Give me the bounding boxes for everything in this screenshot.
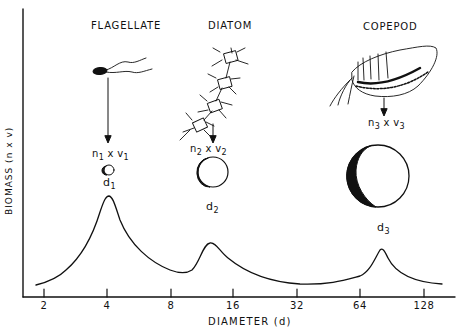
- x-tick-label: 64: [353, 300, 367, 311]
- copepod-sphere: [347, 145, 409, 207]
- x-tick-label: 2: [41, 300, 48, 311]
- x-axis-label: DIAMETER (d): [208, 316, 292, 327]
- copepod-illustration: [330, 46, 437, 106]
- y-axis-label: BIOMASS (n x v): [4, 127, 14, 215]
- flagellate-sphere: [102, 165, 114, 175]
- x-tick-label: 16: [226, 300, 240, 311]
- copepod-title: COPEPOD: [363, 21, 417, 32]
- diatom-illustration: [180, 48, 248, 140]
- diatom-diameter-label: d2: [206, 200, 219, 215]
- biomass-curve: [36, 196, 442, 285]
- flagellate-arrow: [105, 78, 111, 143]
- flagellate-biomass-formula: n1 x v1: [92, 148, 129, 162]
- x-axis-ticks: [44, 289, 424, 297]
- flagellate-illustration: [93, 58, 152, 75]
- diatom-sphere: [197, 157, 228, 187]
- diatom-arrow: [210, 124, 216, 143]
- copepod-arrow: [381, 98, 387, 116]
- diatom-title: DIATOM: [208, 20, 252, 31]
- x-tick-label: 8: [168, 300, 175, 311]
- diatom-biomass-formula: n2 x v2: [190, 143, 227, 157]
- copepod-diameter-label: d3: [377, 221, 390, 236]
- x-tick-label: 32: [290, 300, 304, 311]
- flagellate-title: FLAGELLATE: [91, 20, 161, 31]
- diagram-graphics: [0, 0, 460, 336]
- x-tick-label: 128: [414, 300, 435, 311]
- copepod-biomass-formula: n3 x v3: [368, 117, 405, 131]
- flagellate-diameter-label: d1: [103, 176, 116, 191]
- x-tick-label: 4: [104, 300, 111, 311]
- biomass-size-spectrum-diagram: FLAGELLATE DIATOM COPEPOD n1 x v1 n2 x v…: [0, 0, 460, 336]
